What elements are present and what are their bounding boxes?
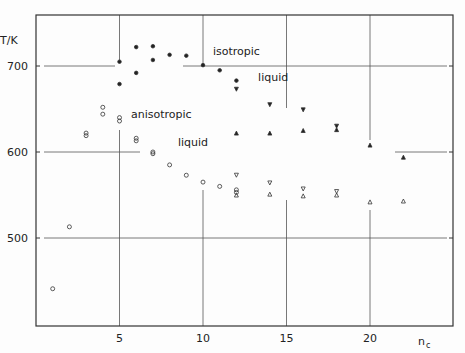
open-circle-marker — [218, 184, 222, 188]
x-axis-label-sub: c — [426, 341, 430, 350]
phase-label: liquid — [258, 71, 288, 84]
x-tick-label: 20 — [363, 332, 377, 345]
open-down-triangle-marker — [234, 173, 238, 177]
open-down-triangle-marker — [268, 181, 272, 185]
y-axis-label: T/K — [0, 34, 18, 47]
filled-down-triangle-marker — [301, 108, 305, 112]
filled-up-triangle-marker — [234, 131, 238, 135]
open-down-triangle-marker — [301, 187, 305, 191]
filled-down-triangle-marker — [234, 87, 238, 91]
y-tick-label: 600 — [7, 146, 28, 159]
filled-circle-marker — [134, 71, 138, 75]
filled-circle-marker — [118, 82, 122, 86]
phase-label: isotropic — [213, 45, 260, 58]
filled-circle-marker — [118, 60, 122, 64]
x-tick-label: 15 — [280, 332, 294, 345]
open-circle-marker — [134, 139, 138, 143]
x-tick-label: 10 — [196, 332, 210, 345]
open-up-triangle-marker — [335, 193, 339, 197]
phase-label: anisotropic — [131, 108, 192, 121]
filled-down-triangle-marker — [268, 103, 272, 107]
filled-up-triangle-marker — [335, 128, 339, 132]
open-circle-marker — [51, 287, 55, 291]
phase-diagram-chart: 5006007005101520 T/K n c isotropicliquid… — [0, 0, 465, 353]
filled-circle-marker — [151, 44, 155, 48]
open-circle-marker — [184, 173, 188, 177]
y-tick-label: 700 — [7, 60, 28, 73]
filled-circle-marker — [218, 69, 222, 73]
filled-circle-marker — [185, 54, 189, 58]
open-up-triangle-marker — [401, 199, 405, 203]
filled-up-triangle-marker — [368, 143, 372, 147]
plot-frame — [36, 15, 453, 326]
filled-circle-marker — [134, 45, 138, 49]
open-up-triangle-marker — [268, 192, 272, 196]
filled-circle-marker — [168, 53, 172, 57]
filled-circle-marker — [151, 58, 155, 62]
filled-up-triangle-marker — [401, 155, 405, 159]
filled-up-triangle-marker — [268, 131, 272, 135]
filled-up-triangle-marker — [301, 129, 305, 133]
open-up-triangle-marker — [368, 200, 372, 204]
grid-lines — [44, 15, 447, 326]
open-circle-marker — [84, 134, 88, 138]
open-circle-marker — [101, 105, 105, 109]
x-axis-label: n — [418, 335, 425, 348]
y-tick-label: 500 — [7, 232, 28, 245]
x-tick-label: 5 — [116, 332, 123, 345]
open-circle-marker — [201, 180, 205, 184]
open-up-triangle-marker — [301, 194, 305, 198]
phase-label: liquid — [178, 136, 208, 149]
open-circle-marker — [101, 112, 105, 116]
filled-circle-marker — [201, 63, 205, 67]
open-circle-marker — [67, 225, 71, 229]
open-circle-marker — [168, 163, 172, 167]
axis-ticks: 5006007005101520 — [7, 60, 453, 345]
filled-circle-marker — [235, 79, 239, 83]
data-points — [51, 44, 406, 290]
